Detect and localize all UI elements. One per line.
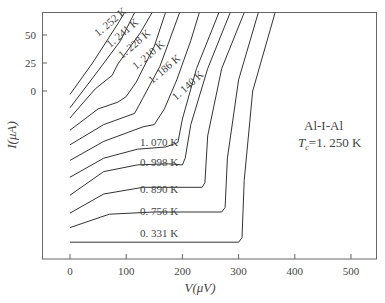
annotation-material: Al-I-Al xyxy=(304,118,343,133)
y-tick-label: 0 xyxy=(31,85,37,97)
curve-label: 1. 070 K xyxy=(140,136,178,148)
y-axis-label: I(μA) xyxy=(4,121,19,149)
x-tick-label: 500 xyxy=(343,265,360,277)
curve-labels: 1. 252 K1. 241 K1. 228 K1. 210 K1. 186 K… xyxy=(92,5,206,239)
curve-label: 0. 756 K xyxy=(140,205,178,217)
curve-label: 0. 331 K xyxy=(140,227,178,239)
x-tick-label: 100 xyxy=(118,265,135,277)
curve-label: 0. 890 K xyxy=(140,183,178,195)
iv-curve-chart: 010020030040050050250 1. 252 K1. 241 K1.… xyxy=(0,0,385,303)
x-tick-label: 200 xyxy=(174,265,191,277)
x-axis-label: V(μV) xyxy=(184,280,215,295)
annotation-tc: Tc=1. 250 K xyxy=(298,135,362,152)
x-tick-label: 0 xyxy=(67,265,73,277)
y-tick-label: 25 xyxy=(25,57,37,69)
x-tick-label: 300 xyxy=(230,265,247,277)
y-tick-label: 50 xyxy=(25,29,37,41)
curve-label: 0. 998 K xyxy=(140,156,178,168)
x-tick-label: 400 xyxy=(287,265,304,277)
axis-ticks: 010020030040050050250 xyxy=(25,29,360,277)
